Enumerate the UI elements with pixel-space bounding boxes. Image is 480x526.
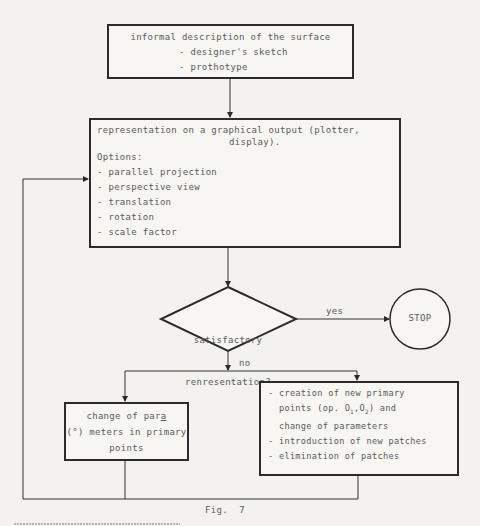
option-scale-factor: - scale factor bbox=[97, 225, 399, 240]
edge-label-yes: yes bbox=[326, 306, 343, 316]
new-primary-points-box: - creation of new primary points (op. O1… bbox=[259, 381, 459, 476]
edge-label-no: no bbox=[239, 358, 250, 368]
input-item-prototype: - prothotype bbox=[109, 60, 352, 75]
representation-box: representation on a graphical output (pl… bbox=[89, 118, 401, 248]
new-points-item-1-line-1: - creation of new primary bbox=[268, 386, 457, 401]
change-params-line-1: change of para bbox=[66, 408, 187, 424]
change-params-line-3: points bbox=[66, 440, 187, 456]
option-parallel-projection: - parallel projection bbox=[97, 165, 399, 180]
input-item-sketch: - designer's sketch bbox=[109, 45, 352, 60]
new-points-item-1-line-3: change of parameters bbox=[268, 419, 457, 434]
option-perspective-view: - perspective view bbox=[97, 180, 399, 195]
figure-caption: Fig. 7 bbox=[205, 505, 245, 515]
options-label: Options: bbox=[97, 150, 399, 165]
option-translation: - translation bbox=[97, 195, 399, 210]
new-points-item-2: - introduction of new patches bbox=[268, 434, 457, 449]
change-params-line-2: (°) meters in primary bbox=[66, 424, 187, 440]
change-parameters-box: change of para (°) meters in primary poi… bbox=[64, 402, 189, 461]
new-points-item-1-line-2: points (op. O1,O2) and bbox=[268, 401, 457, 419]
stop-label: STOP bbox=[398, 313, 442, 323]
input-title: informal description of the surface bbox=[109, 30, 352, 45]
option-rotation: - rotation bbox=[97, 210, 399, 225]
input-description-box: informal description of the surface - de… bbox=[107, 24, 354, 79]
new-points-item-3: - elimination of patches bbox=[268, 449, 457, 464]
decision-line-1: satisfactory bbox=[170, 333, 286, 347]
